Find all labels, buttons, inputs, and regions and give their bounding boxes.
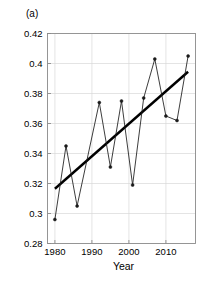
data-point-marker <box>65 145 68 148</box>
y-tick-label: 0.28 <box>24 238 43 249</box>
data-point-marker <box>53 218 56 221</box>
y-tick-label: 0.4 <box>29 58 42 69</box>
data-point-marker <box>153 58 156 61</box>
x-axis-tick-labels: 1980199020002010 <box>44 246 176 257</box>
plot-frame <box>48 34 196 244</box>
y-axis-tickmarks <box>48 34 52 244</box>
x-axis-tickmarks <box>55 240 166 244</box>
x-tick-label: 1980 <box>44 246 65 257</box>
y-tick-label: 0.3 <box>29 208 42 219</box>
y-tick-label: 0.36 <box>24 118 43 129</box>
data-point-marker <box>76 205 79 208</box>
data-point-marker <box>98 101 101 104</box>
data-point-marker <box>164 115 167 118</box>
x-tick-label: 1990 <box>81 246 102 257</box>
data-line-series <box>55 56 188 220</box>
y-tick-label: 0.34 <box>24 148 43 159</box>
data-point-marker <box>109 166 112 169</box>
data-point-marker <box>120 100 123 103</box>
data-point-marker <box>142 97 145 100</box>
data-point-markers <box>53 55 189 222</box>
data-point-marker <box>187 55 190 58</box>
data-point-marker <box>131 184 134 187</box>
trend-line-series <box>55 72 188 189</box>
x-tick-label: 2000 <box>118 246 139 257</box>
x-axis-title: Year <box>113 260 135 272</box>
figure-panel: (a) 0.280.30.320.340.360.380.40.42 19801… <box>0 0 207 294</box>
y-tick-label: 0.42 <box>24 28 43 39</box>
data-polyline <box>55 56 188 220</box>
trend-line <box>55 72 188 189</box>
x-tick-label: 2010 <box>155 246 176 257</box>
y-axis-tick-labels: 0.280.30.320.340.360.380.40.42 <box>24 28 43 249</box>
y-tick-label: 0.32 <box>24 178 43 189</box>
y-tick-label: 0.38 <box>24 88 43 99</box>
line-chart: 0.280.30.320.340.360.380.40.42 198019902… <box>0 0 207 294</box>
data-point-marker <box>176 119 179 122</box>
